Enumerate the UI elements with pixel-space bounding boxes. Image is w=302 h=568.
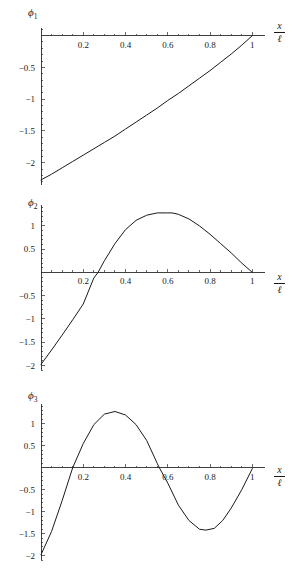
x-tick-label: 0.4 <box>120 40 132 50</box>
y-axis-label-phi3: ϕ3 <box>28 389 37 404</box>
x-axis-numerator: x <box>274 465 285 475</box>
x-tick-label: 0.6 <box>162 276 174 286</box>
x-tick-label: 0.8 <box>204 276 216 286</box>
curve-phi1 <box>41 36 252 180</box>
plot-panel-phi2: 0.20.40.60.8110.5−0.5−1−1.5−2 ϕ2 x ℓ <box>0 190 302 379</box>
x-axis-label-phi1: x ℓ <box>274 21 285 44</box>
y-axis-label-phi1: ϕ1 <box>28 6 37 21</box>
y-tick-label: 0.5 <box>24 441 36 451</box>
plot-panel-phi3: 0.20.40.60.8110.5−0.5−1−1.5−2 ϕ3 x ℓ <box>0 379 302 568</box>
plot-canvas-phi1: 0.20.40.60.81−0.5−1−1.5−2 <box>0 0 302 189</box>
y-tick-label: −0.5 <box>19 485 36 495</box>
y-tick-label: −2 <box>25 361 35 371</box>
x-tick-label: 0.2 <box>78 276 89 286</box>
curve-phi2 <box>41 213 252 365</box>
y-tick-label: −0.5 <box>19 63 36 73</box>
x-tick-label: 0.2 <box>78 472 89 482</box>
y-tick-label: −1 <box>25 94 35 104</box>
y-tick-label: 1 <box>31 221 36 231</box>
y-tick-label: −1.5 <box>19 337 36 347</box>
x-axis-label-phi3: x ℓ <box>274 465 285 488</box>
plot-canvas-phi3: 0.20.40.60.8110.5−0.5−1−1.5−2 <box>0 379 302 568</box>
x-tick-label: 1 <box>250 40 255 50</box>
y-tick-label: −2 <box>25 158 35 168</box>
x-axis-numerator: x <box>274 21 285 31</box>
curve-phi3 <box>41 411 252 554</box>
y-tick-label: −1 <box>25 314 35 324</box>
x-tick-label: 1 <box>250 276 255 286</box>
y-axis-label-phi2: ϕ2 <box>28 196 37 211</box>
x-axis-denominator: ℓ <box>274 285 285 295</box>
x-tick-label: 0.6 <box>162 40 174 50</box>
y-tick-label: −1.5 <box>19 126 36 136</box>
x-tick-label: 1 <box>250 472 255 482</box>
figure-sheet: 0.20.40.60.81−0.5−1−1.5−2 ϕ1 x ℓ 0.20.40… <box>0 0 302 568</box>
x-axis-denominator: ℓ <box>274 34 285 44</box>
plot-panel-phi1: 0.20.40.60.81−0.5−1−1.5−2 ϕ1 x ℓ <box>0 0 302 189</box>
x-axis-numerator: x <box>274 272 285 282</box>
y-tick-label: 0.5 <box>24 244 36 254</box>
x-tick-label: 0.2 <box>78 40 89 50</box>
y-tick-label: −2 <box>25 551 35 561</box>
x-tick-label: 0.4 <box>120 276 132 286</box>
x-axis-label-phi2: x ℓ <box>274 272 285 295</box>
plot-canvas-phi2: 0.20.40.60.8110.5−0.5−1−1.5−2 <box>0 190 302 379</box>
y-tick-label: 1 <box>31 419 36 429</box>
x-tick-label: 0.8 <box>204 472 216 482</box>
x-tick-label: 0.4 <box>120 472 132 482</box>
x-axis-denominator: ℓ <box>274 478 285 488</box>
y-tick-label: −1 <box>25 507 35 517</box>
y-tick-label: −0.5 <box>19 291 36 301</box>
x-tick-label: 0.8 <box>204 40 216 50</box>
y-tick-label: −1.5 <box>19 529 36 539</box>
